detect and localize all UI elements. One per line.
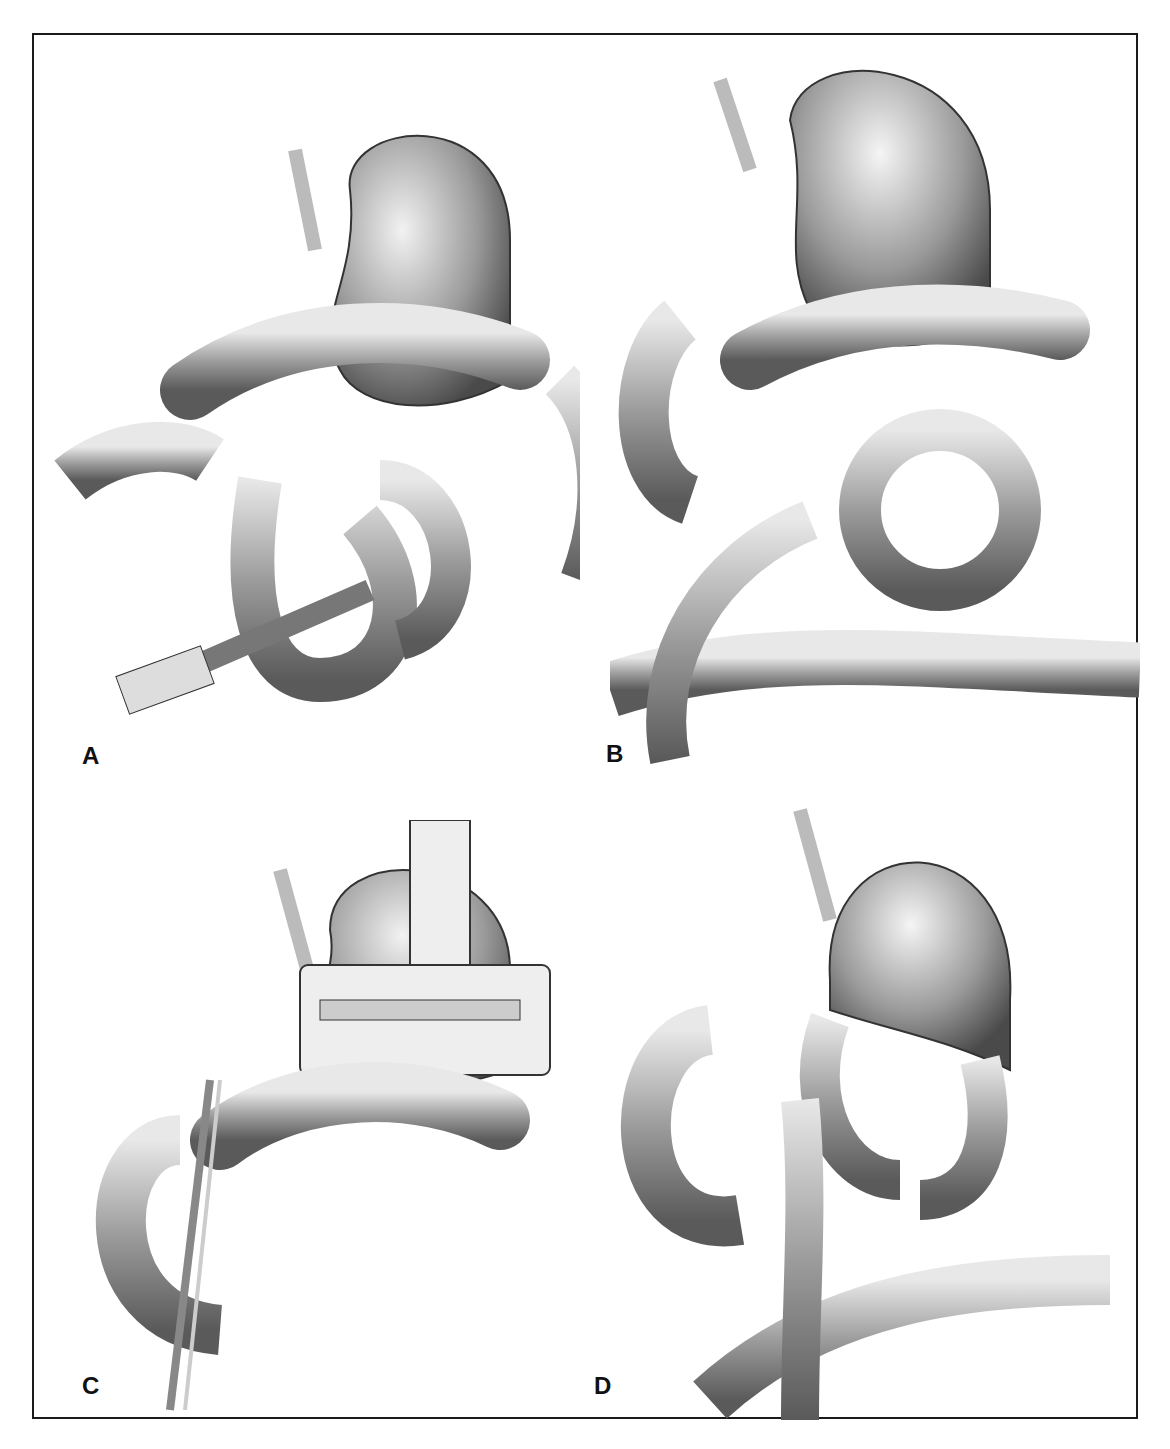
panel-a-illustration	[40, 120, 580, 760]
panel-a: A	[40, 120, 580, 760]
panel-c-illustration	[40, 820, 580, 1420]
panel-b: B	[610, 60, 1140, 780]
panel-d: D	[600, 800, 1138, 1420]
panel-b-illustration	[610, 60, 1140, 780]
panel-label-b: B	[606, 740, 623, 768]
panel-c: C	[40, 820, 580, 1420]
panel-d-illustration	[600, 800, 1138, 1420]
panel-label-a: A	[82, 742, 99, 770]
panel-label-d: D	[594, 1372, 611, 1400]
panel-label-c: C	[82, 1372, 99, 1400]
